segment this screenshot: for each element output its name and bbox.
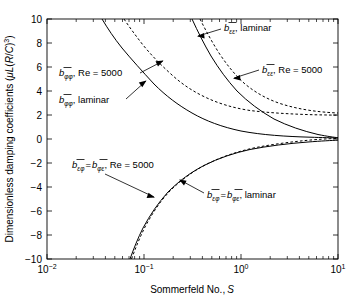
x-tick-label: 100 xyxy=(233,263,248,275)
annotation-epsphi-re5000-text: bεφ=bφε, Re = 5000 xyxy=(72,159,154,173)
y-tick-label: 0 xyxy=(36,134,42,145)
y-tick-label: 6 xyxy=(36,62,42,73)
curve-phiphi-laminar xyxy=(102,19,338,138)
plot-frame xyxy=(47,19,338,259)
x-tick-label: 10−1 xyxy=(134,263,153,275)
annotation-phiphi-laminar-text: bφφ, laminar xyxy=(59,94,109,108)
y-tick-label: 10 xyxy=(31,14,43,25)
y-tick-label: 2 xyxy=(36,110,42,121)
y-tick-label: −10 xyxy=(25,254,42,265)
chart-figure: 10 8 6 4 2 0 −2 −4 −6 −8 −10 10−2 10−1 1… xyxy=(0,0,360,303)
x-axis-ticks xyxy=(47,19,338,259)
annotation-epseps-re5000: bεε, Re = 5000 xyxy=(233,64,322,80)
annotation-epsphi-laminar-text: bεφ=bφε, laminar xyxy=(207,189,276,203)
curve-epseps-laminar xyxy=(192,19,338,138)
arrowhead-epsphi-laminar xyxy=(179,180,187,186)
y-tick-labels: 10 8 6 4 2 0 −2 −4 −6 −8 −10 xyxy=(25,14,42,265)
annotation-epsphi-re5000: bεφ=bφε, Re = 5000 xyxy=(72,159,155,198)
leader-epsphi-re5000 xyxy=(105,174,154,197)
x-tick-labels: 10−2 10−1 100 101 xyxy=(37,263,345,275)
y-tick-label: −8 xyxy=(31,230,43,241)
y-axis-label: Dimensionless damping coefficients (μL(R… xyxy=(3,35,15,242)
y-tick-label: −2 xyxy=(31,158,43,169)
x-tick-label: 101 xyxy=(330,263,345,275)
y-tick-label: −4 xyxy=(31,182,43,193)
arrowhead-phiphi-re5000 xyxy=(156,61,164,67)
annotation-phiphi-re5000-text: bφφ, Re = 5000 xyxy=(59,67,122,81)
y-tick-label: 4 xyxy=(36,86,42,97)
annotation-phiphi-laminar: bφφ, laminar xyxy=(59,81,147,108)
annotation-epseps-laminar-text: bεε, laminar xyxy=(224,22,271,35)
x-tick-label: 10−2 xyxy=(37,263,56,275)
y-axis-ticks xyxy=(47,19,338,259)
y-tick-label: 8 xyxy=(36,38,42,49)
arrowhead-epsphi-re5000 xyxy=(147,193,155,198)
x-axis-label: Sommerfeld No.,S xyxy=(150,284,234,295)
annotation-epseps-laminar: bεε, laminar xyxy=(197,22,271,39)
y-tick-label: −6 xyxy=(31,206,43,217)
annotation-epsphi-laminar: bεφ=bφε, laminar xyxy=(179,180,276,203)
annotation-epseps-re5000-text: bεε, Re = 5000 xyxy=(262,64,322,77)
